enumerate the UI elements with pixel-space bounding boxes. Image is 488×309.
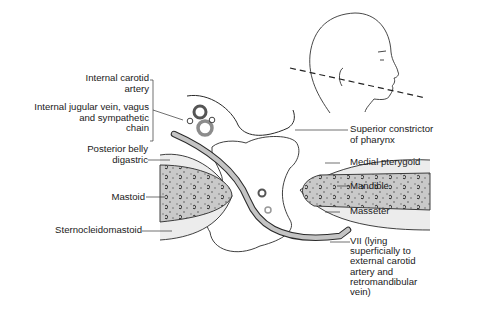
section-plane-line [290,68,426,98]
label-medial-pterygoid: Medial pterygoid [350,157,420,168]
label-internal-carotid: Internal carotidartery [86,73,149,94]
internal-jugular-icon [198,121,212,135]
label-masseter: Masseter [350,206,389,217]
label-mandible: Mandible [350,181,389,192]
label-sternocleidomastoid: Sternocleidomastoid [55,225,142,236]
label-superior-constrictor: Superior constrictorof pharynx [350,124,433,145]
internal-carotid-icon [194,106,206,118]
head-profile-icon [310,13,399,113]
label-posterior-belly-digastric: Posterior bellydigastric [87,144,148,165]
label-ijv-vagus-sympathetic: Internal jugular vein, vagusand sympathe… [34,102,149,134]
label-facial-nerve: VII (lyingsuperficially toexternal carot… [350,236,417,297]
label-mastoid: Mastoid [111,192,145,203]
